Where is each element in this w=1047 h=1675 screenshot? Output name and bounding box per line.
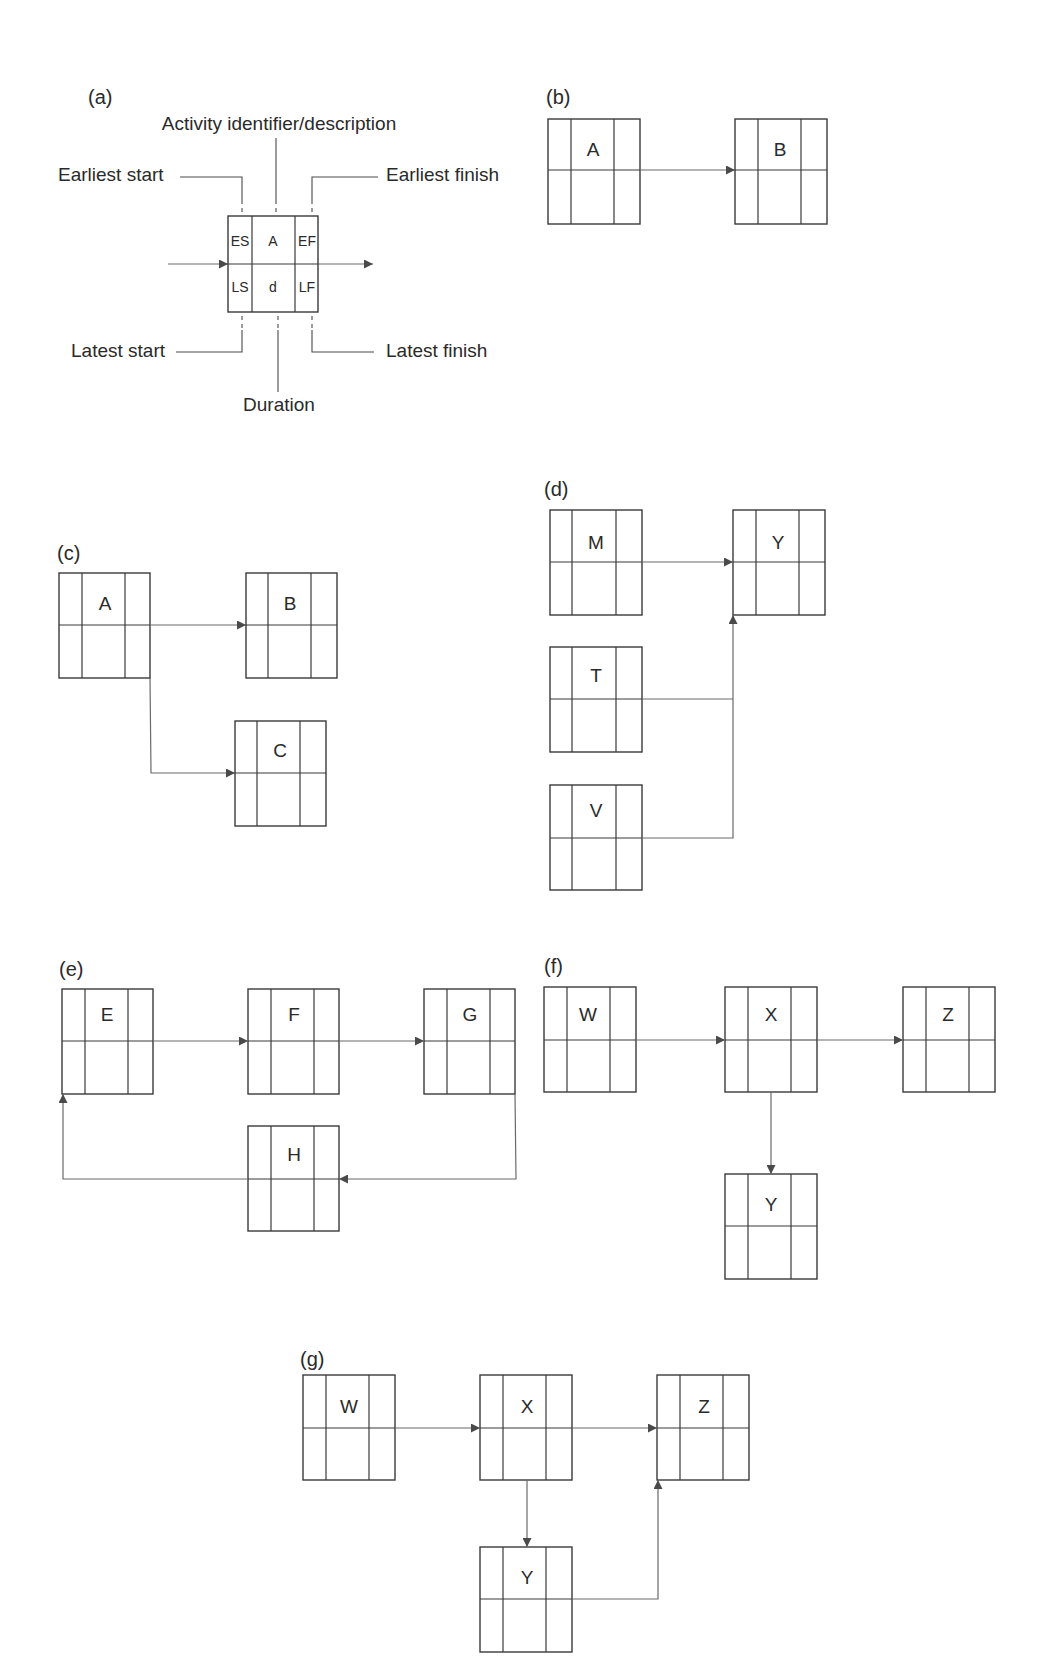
node-legend-box: ES A EF LS d LF (228, 216, 318, 312)
panel-b: (b) A B (546, 86, 827, 224)
node-label: W (579, 1004, 597, 1025)
node-label: Y (765, 1194, 778, 1215)
node-label: Z (698, 1396, 710, 1417)
node-label: V (590, 800, 603, 821)
legend-earliest-finish: Earliest finish (386, 164, 499, 185)
node-g-Y: Y (480, 1547, 572, 1652)
panel-a: (a) Activity identifier/description Earl… (58, 86, 499, 415)
leader-latest-start (176, 330, 242, 352)
panel-label-c: (c) (57, 542, 80, 564)
node-label: T (590, 665, 602, 686)
node-b-A: A (548, 119, 640, 224)
panel-e: (e) E F G H (59, 958, 516, 1231)
panel-d: (d) M T V Y (544, 478, 825, 890)
cell-duration: d (269, 279, 277, 295)
cell-ls: LS (231, 279, 248, 295)
node-label: X (521, 1396, 534, 1417)
edge-H-E (63, 1094, 248, 1179)
node-label: B (284, 593, 297, 614)
node-c-C: C (235, 721, 326, 826)
node-label: X (765, 1004, 778, 1025)
edge-Y-Z (572, 1480, 658, 1599)
node-label: H (287, 1144, 301, 1165)
node-g-W: W (303, 1375, 395, 1480)
panel-label-d: (d) (544, 478, 568, 500)
node-label: G (463, 1004, 478, 1025)
edge-V-Y (642, 615, 733, 838)
node-d-Y: Y (733, 510, 825, 615)
node-c-B: B (246, 573, 337, 678)
panel-label-g: (g) (300, 1348, 324, 1370)
legend-earliest-start: Earliest start (58, 164, 164, 185)
panel-label-e: (e) (59, 958, 83, 980)
network-diagram-figure: (a) Activity identifier/description Earl… (0, 0, 1047, 1675)
node-label: F (288, 1004, 300, 1025)
node-b-B: B (735, 119, 827, 224)
node-label: Y (521, 1567, 534, 1588)
cell-lf: LF (299, 279, 315, 295)
node-label: M (588, 532, 604, 553)
node-e-G: G (424, 989, 515, 1094)
node-c-A: A (59, 573, 150, 678)
node-f-Z: Z (903, 987, 995, 1092)
node-g-Z: Z (657, 1375, 749, 1480)
cell-es: ES (231, 233, 250, 249)
panel-label-a: (a) (88, 86, 112, 108)
legend-latest-finish: Latest finish (386, 340, 487, 361)
panel-c: (c) A B C (57, 542, 337, 826)
node-d-M: M (550, 510, 642, 615)
node-e-F: F (248, 989, 339, 1094)
node-f-Y: Y (725, 1174, 817, 1279)
cell-activity-id: A (268, 233, 278, 249)
leader-latest-finish (312, 330, 374, 352)
node-f-X: X (725, 987, 817, 1092)
node-label: C (273, 740, 287, 761)
node-d-T: T (550, 647, 642, 752)
legend-latest-start: Latest start (71, 340, 166, 361)
legend-duration: Duration (243, 394, 315, 415)
node-g-X: X (480, 1375, 572, 1480)
node-f-W: W (544, 987, 636, 1092)
edge-G-H (339, 1094, 516, 1179)
node-label: A (587, 139, 600, 160)
node-e-E: E (62, 989, 153, 1094)
node-d-V: V (550, 785, 642, 890)
node-e-H: H (248, 1126, 339, 1231)
legend-activity-identifier: Activity identifier/description (162, 113, 396, 134)
panel-label-b: (b) (546, 86, 570, 108)
leader-earliest-start (180, 177, 242, 200)
panel-label-f: (f) (544, 955, 563, 977)
node-label: B (774, 139, 787, 160)
node-label: W (340, 1396, 358, 1417)
node-label: A (99, 593, 112, 614)
leader-earliest-finish (312, 177, 378, 200)
node-label: E (101, 1004, 114, 1025)
cell-ef: EF (298, 233, 316, 249)
node-label: Z (942, 1004, 954, 1025)
panel-g: (g) W X Z Y (300, 1348, 749, 1652)
panel-f: (f) W X Z Y (544, 955, 995, 1279)
node-label: Y (772, 532, 785, 553)
edge-A-C (150, 678, 235, 773)
